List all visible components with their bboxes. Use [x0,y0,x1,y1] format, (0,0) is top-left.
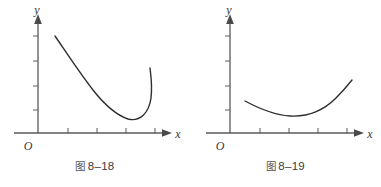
y-axis-label-8-19: y [225,3,232,17]
origin-label-8-18: O [24,139,33,153]
origin-label-8-19: O [216,139,225,153]
caption-prefix-8-18: 图 [75,160,85,172]
x-axis-arrowhead-8-19 [354,129,364,137]
x-axis-label-8-18: x [174,127,181,141]
y-axis-label-8-18: y [33,3,40,17]
figure-panel-8-19: y x O 图8–19 [190,0,381,187]
figure-pair-container: y x O 图8–18 [0,0,381,187]
x-axis-label-8-19: x [366,127,373,141]
plot-8-19: y x O [190,0,381,160]
figure-panel-8-18: y x O 图8–18 [0,0,190,187]
plot-8-18: y x O [0,0,190,160]
caption-prefix-8-19: 图 [266,160,276,172]
curve-8-19 [245,80,352,116]
x-axis-arrowhead-8-18 [162,129,172,137]
figure-caption-8-18: 图8–18 [0,158,190,173]
curve-8-18 [55,36,152,120]
caption-number-8-19: 8–19 [278,160,305,172]
figure-caption-8-19: 图8–19 [190,158,381,173]
caption-number-8-18: 8–18 [88,160,115,172]
